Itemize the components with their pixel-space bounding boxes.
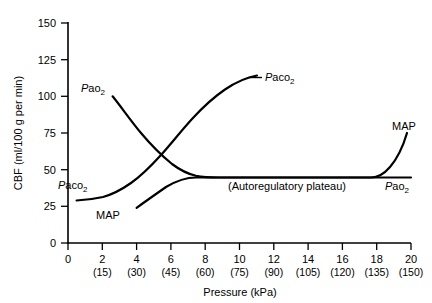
series-curve-map xyxy=(137,133,407,208)
x-tick-sublabel-150: (150) xyxy=(399,266,424,278)
y-tick-label-125: 125 xyxy=(38,54,56,66)
pao2-left-subscript: 2 xyxy=(101,88,106,97)
x-tick-label-0: 0 xyxy=(65,253,71,265)
annotation-autoregulatory-plateau: (Autoregulatory plateau) xyxy=(228,180,346,192)
x-tick-label-10: 10 xyxy=(233,253,245,265)
y-tick-label-25: 25 xyxy=(44,200,56,212)
x-tick-sublabel-120: (120) xyxy=(330,266,355,278)
y-tick-label-100: 100 xyxy=(38,90,56,102)
x-tick-label-2: 2 xyxy=(99,253,105,265)
x-tick-sublabel-15: (15) xyxy=(93,266,112,278)
series-label-pao2-left: Pao2 xyxy=(81,82,106,97)
series-label-paco2-right: Paco2 xyxy=(265,71,295,86)
cerebral-blood-flow-autoregulation-chart: CBF (ml/100 g per min) 0 25 50 75 100 12… xyxy=(0,0,432,303)
paco2-left-subscript: 2 xyxy=(83,185,88,194)
x-tick-sublabel-30: (30) xyxy=(127,266,146,278)
paco2-right-subscript: 2 xyxy=(290,77,295,86)
series-curve-pao2 xyxy=(113,96,411,177)
x-tick-sublabel-105: (105) xyxy=(296,266,321,278)
x-tick-label-4: 4 xyxy=(134,253,140,265)
series-label-map-right: MAP xyxy=(392,120,416,132)
x-tick-label-12: 12 xyxy=(268,253,280,265)
pao2-left-mid: ao xyxy=(88,82,100,94)
x-tick-label-18: 18 xyxy=(371,253,383,265)
series-label-pao2-right: Pao2 xyxy=(385,180,410,195)
paco2-right-mid: aco xyxy=(272,71,290,83)
y-axis-title-group: CBF (ml/100 g per min) xyxy=(12,76,24,190)
series-labels: Pao2 Paco2 Paco2 MAP MAP Pao2 xyxy=(58,71,416,221)
series-label-map-left: MAP xyxy=(96,209,120,221)
x-tick-sublabel-135: (135) xyxy=(364,266,389,278)
series-label-paco2-left: Paco2 xyxy=(58,179,88,194)
chart-svg: CBF (ml/100 g per min) 0 25 50 75 100 12… xyxy=(0,0,432,303)
pao2-right-mid: ao xyxy=(392,180,404,192)
paco2-left-mid: aco xyxy=(65,179,83,191)
x-tick-label-6: 6 xyxy=(168,253,174,265)
y-tick-label-0: 0 xyxy=(50,237,56,249)
x-tick-label-14: 14 xyxy=(302,253,314,265)
x-tick-label-16: 16 xyxy=(336,253,348,265)
x-axis-ticks: 0 2 4 6 8 10 12 14 16 18 20 (15) (30) (4… xyxy=(65,243,423,278)
pao2-right-subscript: 2 xyxy=(405,186,410,195)
x-tick-sublabel-75: (75) xyxy=(230,266,249,278)
y-tick-label-150: 150 xyxy=(38,17,56,29)
y-tick-label-50: 50 xyxy=(44,164,56,176)
x-tick-sublabel-45: (45) xyxy=(162,266,181,278)
x-tick-label-8: 8 xyxy=(202,253,208,265)
y-axis-ticks: 0 25 50 75 100 125 150 xyxy=(38,17,68,249)
x-axis-title: Pressure (kPa) xyxy=(203,286,276,298)
x-tick-label-20: 20 xyxy=(405,253,417,265)
y-axis-title: CBF (ml/100 g per min) xyxy=(12,76,24,190)
x-tick-sublabel-60: (60) xyxy=(196,266,215,278)
y-tick-label-75: 75 xyxy=(44,127,56,139)
x-tick-sublabel-90: (90) xyxy=(264,266,283,278)
